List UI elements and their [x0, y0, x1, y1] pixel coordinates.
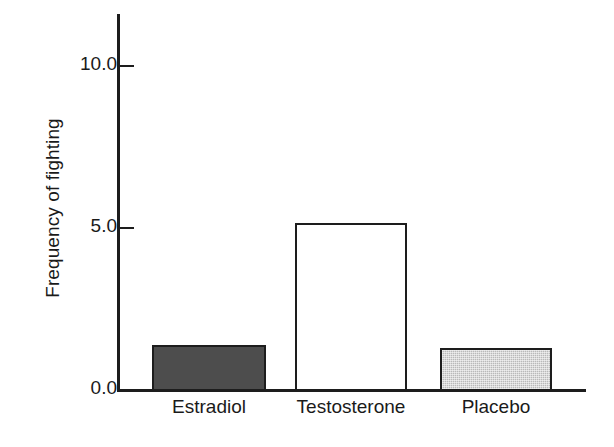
bar-testosterone	[295, 223, 407, 391]
bar-estradiol	[152, 345, 266, 391]
x-tick-label-placebo: Placebo	[390, 396, 602, 418]
bar-placebo	[440, 348, 552, 391]
plot-area: EstradiolTestosteronePlacebo	[0, 0, 614, 447]
bar-chart-figure: Frequency of fighting 0.05.010.0 Estradi…	[0, 0, 614, 447]
